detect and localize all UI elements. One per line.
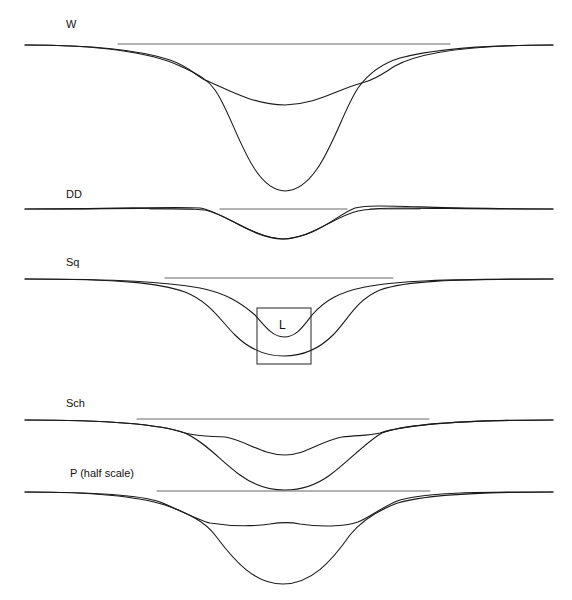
panel-sq	[25, 278, 553, 364]
inset-label: L	[279, 318, 286, 332]
profile-curve-shallow	[25, 492, 553, 526]
profile-curve-outer	[25, 279, 553, 356]
profile-comparison-figure: L	[0, 0, 572, 600]
panel-label-dd: DD	[66, 188, 82, 200]
panel-sch	[25, 419, 553, 490]
panel-label-sq: Sq	[66, 256, 79, 268]
profile-curve-deep	[25, 45, 553, 191]
clipped-caption	[16, 595, 246, 600]
profile-curve-shallow	[25, 420, 553, 455]
panel-p	[25, 491, 553, 584]
panel-w	[25, 44, 553, 191]
profile-curve-a	[25, 206, 553, 239]
panel-label-w: W	[66, 18, 76, 30]
panel-label-sch: Sch	[66, 397, 85, 409]
panel-label-p: P (half scale)	[70, 467, 134, 479]
profile-curve-shallow	[25, 45, 553, 105]
panel-dd	[25, 206, 553, 239]
profile-curve-deep	[25, 492, 553, 584]
profile-curve-b	[25, 208, 553, 239]
